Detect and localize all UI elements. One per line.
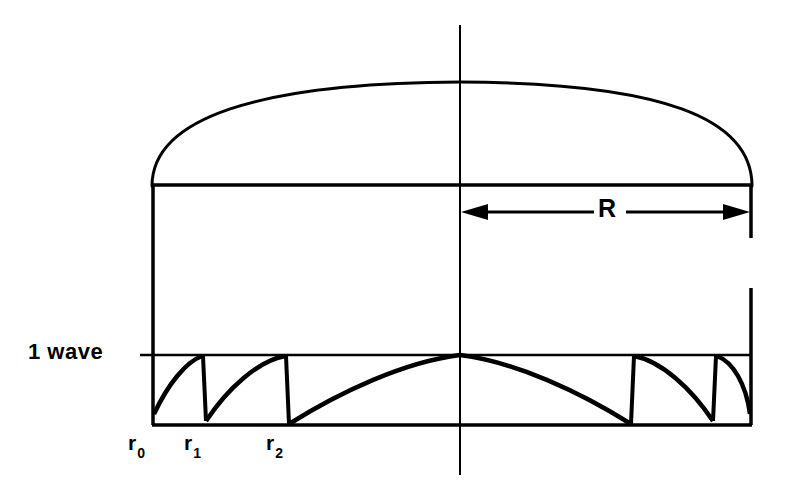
phase-segment-2: [289, 355, 460, 424]
phase-profile-left: [154, 355, 460, 424]
phase-reset-1-mirror: [713, 356, 716, 421]
fresnel-zone-diagram: 1 wave R r0 r1 r2: [0, 0, 792, 485]
zone-radius-label-0: r0: [128, 432, 144, 457]
wave-reference-label: 1 wave: [28, 341, 103, 363]
zone-radius-2-subscript: 2: [275, 445, 283, 461]
zone-radius-label-1: r1: [184, 432, 200, 457]
zone-radius-0-base: r: [128, 431, 136, 454]
phase-reset-2-mirror: [631, 356, 634, 424]
radius-arrow-head-left: [461, 204, 488, 220]
lens-dome-curve: [152, 82, 752, 186]
radius-dimension-label: R: [598, 196, 616, 221]
phase-profile-right: [460, 355, 750, 424]
phase-segment-1-mirror: [634, 356, 713, 421]
zone-radius-2-base: r: [266, 431, 274, 454]
zone-radius-1-subscript: 1: [193, 445, 201, 461]
phase-reset-1: [203, 356, 206, 421]
diagram-canvas: [0, 0, 792, 485]
zone-radius-0-subscript: 0: [137, 445, 145, 461]
phase-segment-1: [206, 356, 285, 421]
phase-segment-0: [154, 356, 202, 414]
radius-arrow-head-right: [723, 204, 750, 220]
phase-segment-2-mirror: [460, 355, 631, 424]
zone-radius-1-base: r: [184, 431, 192, 454]
phase-reset-2: [286, 356, 289, 424]
phase-segment-0-mirror: [717, 356, 750, 414]
zone-radius-label-2: r2: [266, 432, 282, 457]
